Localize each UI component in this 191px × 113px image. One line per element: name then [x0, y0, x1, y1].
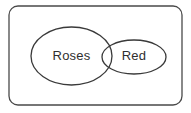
venn-diagram-container: Roses Red: [0, 0, 191, 113]
universal-set-rectangle: [9, 6, 182, 105]
venn-diagram-canvas: Roses Red: [0, 0, 191, 113]
set-label-red: Red: [122, 48, 146, 63]
set-label-roses: Roses: [53, 48, 91, 63]
